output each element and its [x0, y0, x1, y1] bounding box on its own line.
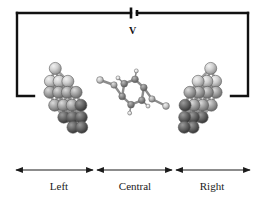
region-label-central: Central: [96, 180, 174, 193]
molecular-junction-figure: V: [0, 0, 265, 203]
region-label-left: Left: [22, 180, 96, 193]
region-label-right: Right: [176, 180, 248, 193]
region-axis: [0, 0, 265, 203]
